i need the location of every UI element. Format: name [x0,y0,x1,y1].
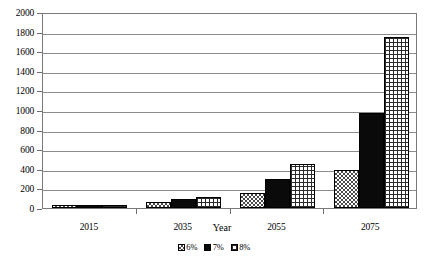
bar-group-2075 [324,14,418,208]
x-tick-mark [230,209,231,214]
legend-item-7%: 7% [204,242,223,252]
y-tick-label: 1200 [16,86,34,96]
y-tick-label: 800 [20,126,34,136]
x-tick-mark [323,209,324,214]
legend-swatch-6% [178,244,185,251]
x-tick-mark [136,209,137,214]
bar-chart: 0200400600800100012001400160018002000 Ye… [0,0,428,261]
bar-2075-6% [334,170,359,208]
bar-2035-6% [146,202,171,208]
bar-2055-7% [265,179,290,208]
y-tick-label: 200 [20,184,34,194]
plot-area [42,13,417,209]
legend-swatch-7% [204,244,211,251]
legend-item-8%: 8% [231,242,250,252]
bar-2015-6% [52,205,77,208]
y-tick-label: 1800 [16,28,34,38]
bar-2035-7% [171,199,196,208]
y-tick-label: 0 [29,204,34,214]
x-axis-title: Year [213,222,231,233]
y-tick-mark [37,209,42,210]
legend-label-8%: 8% [239,242,250,252]
bars-layer [43,14,416,208]
bar-group-2055 [231,14,325,208]
bar-2055-6% [240,193,265,208]
y-tick-label: 1600 [16,47,34,57]
bar-group-2015 [43,14,137,208]
y-tick-label: 1400 [16,67,34,77]
y-tick-label: 2000 [16,8,34,18]
bar-2015-8% [102,205,127,208]
legend-label-7%: 7% [213,242,224,252]
bar-2035-8% [196,197,221,208]
x-tick-label-2075: 2075 [361,222,379,233]
bar-2015-7% [77,205,102,208]
bar-2075-7% [359,113,384,208]
bar-group-2035 [137,14,231,208]
y-axis: 0200400600800100012001400160018002000 [0,0,40,261]
y-tick-label: 600 [20,145,34,155]
bar-2055-8% [290,164,315,208]
y-tick-label: 1000 [16,106,34,116]
x-tick-label-2055: 2055 [267,222,285,233]
y-tick-label: 400 [20,165,34,175]
x-tick-label-2015: 2015 [80,222,98,233]
legend-label-6%: 6% [186,242,197,252]
legend-swatch-8% [231,244,238,251]
legend: 6%7%8% [0,242,428,252]
legend-item-6%: 6% [178,242,197,252]
bar-2075-8% [384,37,409,208]
x-tick-label-2035: 2035 [174,222,192,233]
